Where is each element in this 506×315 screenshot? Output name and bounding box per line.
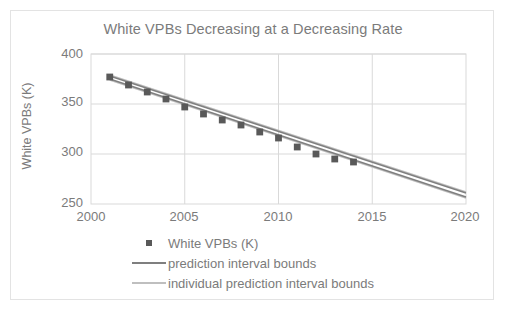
chart-container: White VPBs Decreasing at a Decreasing Ra…	[10, 10, 494, 300]
line-swatch-icon	[131, 262, 167, 264]
prediction-interval-bounds	[110, 76, 466, 197]
square-marker-icon	[131, 240, 167, 246]
chart-legend: White VPBs (K) prediction interval bound…	[11, 233, 495, 293]
legend-label-prediction-bounds: prediction interval bounds	[167, 256, 316, 271]
legend-label-white-vpbs: White VPBs (K)	[167, 236, 258, 251]
legend-item-prediction-bounds: prediction interval bounds	[11, 253, 495, 273]
legend-item-individual-bounds: individual prediction interval bounds	[11, 273, 495, 293]
legend-item-white-vpbs: White VPBs (K)	[11, 233, 495, 253]
line-swatch-light-icon	[131, 282, 167, 284]
legend-label-individual-bounds: individual prediction interval bounds	[167, 276, 374, 291]
gridlines	[91, 54, 466, 204]
